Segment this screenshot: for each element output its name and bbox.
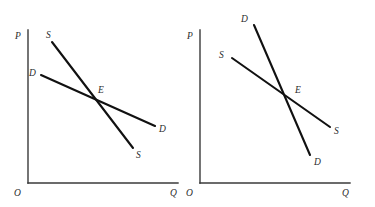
right-panel-supply-label-right: S (334, 126, 339, 136)
right-panel-equilibrium-label: E (294, 85, 301, 95)
right-panel-demand-curve (254, 25, 310, 155)
left-panel-supply-curve (52, 42, 133, 148)
right-panel-p-axis-label: P (186, 31, 193, 41)
figure-root: P O Q S S D D E P O Q D D S S E (0, 0, 375, 207)
left-panel-origin-label: O (14, 188, 21, 198)
right-panel-demand-label-top: D (240, 14, 248, 24)
left-panel-demand-label-right: D (158, 124, 166, 134)
left-panel-equilibrium-label: E (97, 85, 104, 95)
left-panel-demand-curve (41, 75, 155, 126)
left-panel: P O Q S S D D E (14, 30, 178, 198)
right-panel-demand-label-bottom: D (313, 157, 321, 167)
left-panel-demand-label-left: D (28, 68, 36, 78)
left-panel-q-axis-label: Q (170, 188, 177, 198)
right-panel-origin-label: O (186, 188, 193, 198)
right-panel: P O Q D D S S E (186, 14, 350, 198)
left-panel-p-axis-label: P (14, 31, 21, 41)
left-panel-supply-label-bottom: S (136, 150, 141, 160)
right-panel-supply-curve (232, 58, 330, 127)
right-panel-q-axis-label: Q (342, 188, 349, 198)
supply-demand-diagram: P O Q S S D D E P O Q D D S S E (0, 0, 375, 207)
left-panel-supply-label-top: S (46, 30, 51, 40)
right-panel-supply-label-left: S (219, 50, 224, 60)
